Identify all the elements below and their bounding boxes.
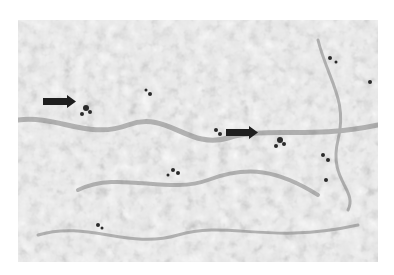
arrow-center-icon	[226, 126, 259, 139]
arrow-left-icon	[43, 95, 77, 108]
micrograph-image	[18, 20, 378, 262]
tissue-texture	[18, 20, 378, 262]
